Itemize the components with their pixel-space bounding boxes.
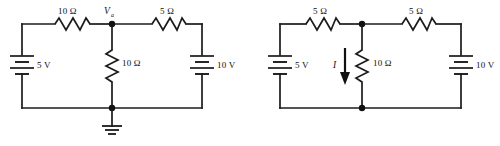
resistor-middle-body-2 bbox=[356, 50, 368, 82]
battery-left-label: 5 V bbox=[37, 60, 51, 70]
current-arrow-head bbox=[340, 72, 350, 85]
resistor-top-right-body-2 bbox=[402, 18, 436, 30]
resistor-top-right-label: 5 Ω bbox=[160, 6, 174, 16]
current-label: I bbox=[332, 60, 337, 70]
resistor-top-right-label-2: 5 Ω bbox=[409, 6, 423, 16]
circuit-diagram-canvas: 10 Ω 5 Ω 10 Ω 5 V 10 V V a bbox=[0, 0, 500, 146]
node-dot-top-2 bbox=[359, 21, 365, 27]
right-circuit: 5 Ω 5 Ω 10 Ω 5 V 10 V I bbox=[268, 6, 495, 111]
left-circuit: 10 Ω 5 Ω 10 Ω 5 V 10 V V a bbox=[10, 6, 236, 134]
resistor-top-left-body bbox=[55, 18, 90, 30]
resistor-middle-label-2: 10 Ω bbox=[373, 58, 392, 68]
node-dot-bottom-2 bbox=[359, 105, 365, 111]
battery-left-label-2: 5 V bbox=[295, 60, 309, 70]
node-label-va-subscript: a bbox=[111, 12, 114, 18]
circuit-figure: 10 Ω 5 Ω 10 Ω 5 V 10 V V a bbox=[0, 0, 500, 146]
battery-right-label-2: 10 V bbox=[476, 60, 495, 70]
resistor-top-right-body bbox=[152, 18, 186, 30]
resistor-top-left-label: 10 Ω bbox=[58, 6, 77, 16]
resistor-top-left-body-2 bbox=[306, 18, 340, 30]
battery-right-label: 10 V bbox=[217, 60, 236, 70]
node-dot-va bbox=[109, 21, 115, 27]
resistor-top-left-label-2: 5 Ω bbox=[313, 6, 327, 16]
resistor-middle-label: 10 Ω bbox=[122, 58, 141, 68]
node-label-va: V bbox=[104, 6, 111, 16]
resistor-middle-body bbox=[106, 50, 118, 82]
